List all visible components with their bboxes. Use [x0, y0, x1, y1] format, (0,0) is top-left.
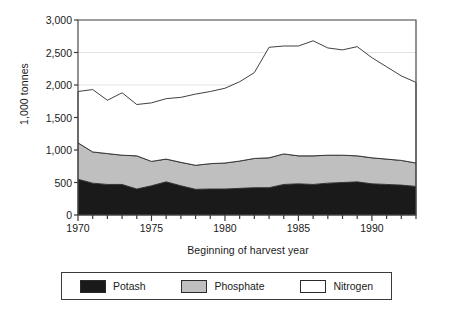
legend-label: Potash [113, 280, 146, 292]
chart-legend: PotashPhosphateNitrogen [61, 272, 392, 300]
legend-swatch-icon [80, 280, 106, 293]
legend-item: Nitrogen [300, 280, 373, 293]
plot-area [0, 0, 457, 312]
legend-item: Potash [80, 280, 146, 293]
area-series-nitrogen [78, 41, 416, 165]
legend-label: Phosphate [214, 280, 264, 292]
legend-swatch-icon [300, 280, 326, 293]
legend-label: Nitrogen [333, 280, 373, 292]
legend-swatch-icon [181, 280, 207, 293]
chart-container: 1,000 tonnes 05001,0001,5002,0002,5003,0… [0, 0, 457, 312]
legend-item: Phosphate [181, 280, 264, 293]
